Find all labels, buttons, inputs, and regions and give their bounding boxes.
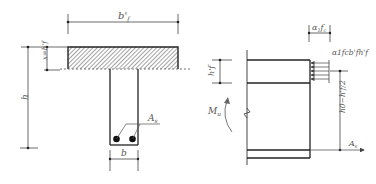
t-beam-diagram: b'f As b bbox=[0, 0, 376, 184]
flange-width-dimension: b'f bbox=[67, 10, 180, 34]
flange-hatched bbox=[68, 47, 178, 69]
moment-arrowhead-icon bbox=[224, 97, 230, 104]
left-cross-section: b'f As b bbox=[20, 10, 190, 171]
stress-block-arrows bbox=[311, 60, 329, 83]
web-width-label: b bbox=[121, 148, 127, 158]
steel-area-label: As bbox=[147, 113, 158, 124]
steel-force-label: As bbox=[348, 139, 358, 149]
stress-width-dimension: α1fc bbox=[308, 23, 331, 42]
web-width-dimension: b bbox=[109, 148, 139, 171]
right-stress-diagram: α1fc α1fcb'fh'f h'f h0−h'f/2 As Mu bbox=[207, 23, 369, 165]
depth-dimension: h bbox=[20, 46, 68, 150]
depth-label: h bbox=[20, 94, 30, 100]
compression-force-label: α1fcb'fh'f bbox=[332, 48, 369, 57]
compression-depth-label: x=h'f bbox=[41, 40, 49, 60]
flange-height-dimension: h'f bbox=[207, 59, 232, 85]
compression-depth-dimension: x=h'f bbox=[41, 40, 60, 72]
flange-height-label: h'f bbox=[207, 64, 216, 76]
lever-arm-dimension: h0−h'f/2 bbox=[330, 70, 348, 152]
moment-label: Mu bbox=[207, 106, 221, 117]
moment-arc bbox=[225, 100, 232, 132]
flange-width-label: b'f bbox=[118, 10, 131, 23]
lever-arm-label: h0−h'f/2 bbox=[338, 80, 347, 113]
stress-label: α1fc bbox=[312, 23, 327, 33]
